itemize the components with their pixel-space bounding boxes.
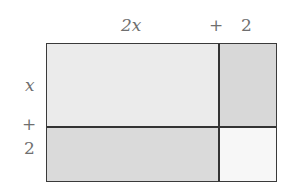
top-label-2: 2 [241,17,252,34]
side-label-plus: + [22,116,36,133]
side-label-x: x [25,77,35,94]
outer-rectangle [46,43,277,182]
top-label-2x: 2x [121,17,141,34]
top-label-plus: + [209,17,223,34]
side-label-2: 2 [24,140,35,157]
